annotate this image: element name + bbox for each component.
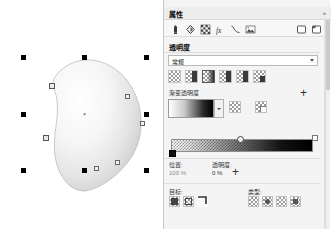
collapse-chevron-icon[interactable]: » (323, 10, 325, 16)
handle-bottom-center[interactable] (82, 168, 87, 173)
uniform-transparency-button[interactable] (185, 70, 198, 83)
handle-bottom-right[interactable] (144, 168, 149, 173)
section-divider-2 (164, 158, 320, 159)
bitmap-pattern-transparency-button[interactable] (236, 70, 249, 83)
edit-transparency-button[interactable] (229, 101, 241, 113)
shape-node-bottom-left[interactable] (94, 166, 99, 171)
effects-fx-icon[interactable]: fx (214, 23, 226, 35)
no-transparency-button[interactable] (168, 70, 181, 83)
shape-node-bottom[interactable] (115, 160, 120, 165)
docker-scrollbar[interactable] (325, 20, 330, 229)
svg-text:fx: fx (216, 25, 222, 34)
selection-group[interactable]: × (0, 0, 163, 229)
handle-top-left[interactable] (21, 55, 26, 60)
shape-node-right-upper[interactable] (125, 94, 130, 99)
handle-top-center[interactable] (82, 55, 87, 60)
handle-top-right[interactable] (144, 55, 149, 60)
section-divider-3 (164, 183, 320, 184)
curve-icon[interactable] (229, 23, 241, 35)
chevron-down-icon[interactable] (310, 59, 314, 62)
gradient-preset-dropdown[interactable] (214, 99, 224, 118)
transparency-field-label: 透明度: (212, 160, 232, 169)
transparency-value[interactable]: 0 % (212, 170, 222, 176)
scrollbar-thumb[interactable] (326, 20, 330, 90)
type-label: 类型: (248, 187, 262, 196)
vector-pattern-transparency-button[interactable] (219, 70, 232, 83)
add-node-button[interactable]: + (232, 167, 239, 177)
add-gradient-button[interactable]: + (300, 88, 307, 98)
transparency-node-start[interactable] (49, 83, 55, 89)
type-elliptical-button[interactable] (262, 196, 273, 207)
handle-middle-right[interactable] (144, 112, 149, 117)
shape-path[interactable] (53, 60, 141, 191)
transparency-section-label: 透明度 (169, 42, 190, 52)
shape-node-right-lower[interactable] (140, 121, 145, 126)
drawing-canvas[interactable]: × (0, 0, 163, 229)
target-all-button[interactable] (197, 196, 208, 207)
docker-title-bar[interactable]: 属性 » (164, 7, 331, 20)
position-label: 位置: (169, 160, 183, 169)
page-icon[interactable] (295, 23, 307, 35)
transparency-icon[interactable] (199, 23, 211, 35)
bitmap-icon[interactable] (244, 23, 256, 35)
fountain-transparency-button[interactable] (202, 70, 215, 83)
page-title: 属性 (169, 9, 183, 19)
handle-bottom-left[interactable] (21, 168, 26, 173)
outline-pen-icon[interactable] (169, 23, 181, 35)
merge-mode-combo[interactable]: 常规 (168, 55, 318, 66)
position-value[interactable]: 100 % (169, 170, 186, 176)
target-fill-button[interactable] (169, 196, 180, 207)
gradient-ramp-node-start[interactable] (169, 150, 176, 157)
target-label: 目标: (169, 187, 183, 196)
docker-icon-toolbar: fx (164, 20, 331, 37)
gradient-ramp-node-end[interactable] (312, 135, 318, 141)
type-linear-button[interactable] (248, 196, 259, 207)
chevron-down-icon[interactable] (217, 108, 221, 110)
texture-transparency-button[interactable] (253, 70, 266, 83)
fill-icon[interactable] (184, 23, 196, 35)
type-conical-button[interactable] (276, 196, 287, 207)
shape-center-marker: × (82, 112, 87, 117)
target-outline-button[interactable] (183, 196, 194, 207)
gradient-transparency-label: 渐变透明度 (169, 88, 199, 97)
type-rectangular-button[interactable] (290, 196, 301, 207)
gradient-ramp-node-mid[interactable] (237, 136, 244, 143)
transparency-node-mid[interactable] (43, 135, 49, 141)
copy-transparency-button[interactable] (255, 101, 267, 113)
properties-docker: 属性 » (163, 0, 330, 229)
merge-mode-value: 常规 (172, 57, 184, 66)
section-divider-1 (164, 52, 320, 53)
page-layout-icon[interactable] (310, 23, 322, 35)
gradient-preview[interactable] (168, 99, 214, 118)
handle-middle-left[interactable] (21, 112, 26, 117)
